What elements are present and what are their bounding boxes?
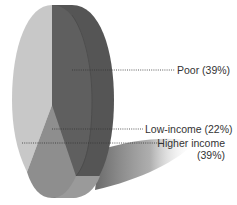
label-higher-income-name: Higher income bbox=[157, 137, 225, 149]
label-low-income: Low-income (22%) bbox=[145, 123, 233, 135]
pie-chart-graphic bbox=[0, 0, 237, 205]
label-higher-income-value: (39%) bbox=[157, 149, 225, 161]
label-poor: Poor (39%) bbox=[177, 64, 230, 76]
label-higher-income: Higher income (39%) bbox=[157, 137, 225, 161]
